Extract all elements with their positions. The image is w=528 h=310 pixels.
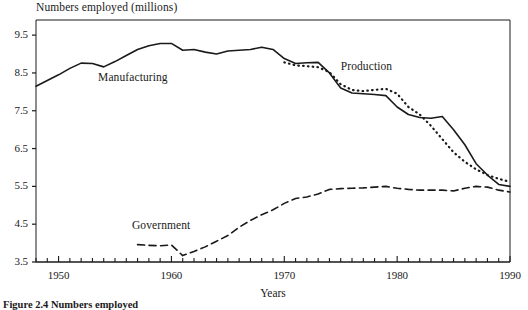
y-tick-label: 8.5 xyxy=(2,66,28,78)
x-tick-label: 1950 xyxy=(39,269,79,281)
x-tick-label: 1990 xyxy=(490,269,528,281)
series-line-manufacturing xyxy=(36,43,510,186)
chart-plot-area xyxy=(0,0,528,310)
y-tick-label: 9.5 xyxy=(2,28,28,40)
x-tick-label: 1970 xyxy=(264,269,304,281)
y-tick-label: 5.5 xyxy=(2,179,28,191)
figure-container: Numbers employed (millions) 3.54.55.56.5… xyxy=(0,0,528,310)
x-tick-label: 1980 xyxy=(377,269,417,281)
series-label-manufacturing: Manufacturing xyxy=(98,71,168,83)
x-axis-title: Years xyxy=(243,287,303,299)
series-label-production: Production xyxy=(341,60,392,72)
plot-frame xyxy=(36,20,510,262)
series-label-government: Government xyxy=(132,219,190,231)
y-tick-label: 3.5 xyxy=(2,255,28,267)
y-tick-label: 6.5 xyxy=(2,142,28,154)
y-tick-label: 4.5 xyxy=(2,217,28,229)
y-tick-label: 7.5 xyxy=(2,104,28,116)
figure-caption: Figure 2.4 Numbers employed xyxy=(3,299,138,310)
x-tick-label: 1960 xyxy=(151,269,191,281)
axes-group xyxy=(32,20,510,262)
series-line-government xyxy=(138,186,510,255)
